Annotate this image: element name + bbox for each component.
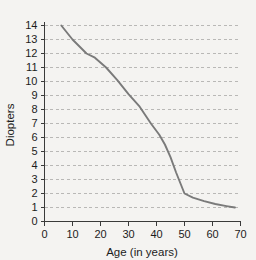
y-tick-label-6: 6: [31, 131, 37, 143]
data-series: [61, 26, 235, 208]
y-tick-label-13: 13: [25, 33, 37, 45]
x-axis-ticks: 010203040506070: [41, 222, 246, 240]
y-tick-label-9: 9: [31, 89, 37, 101]
y-tick-label-12: 12: [25, 47, 37, 59]
y-tick-label-7: 7: [31, 117, 37, 129]
axes: [45, 22, 241, 222]
x-tick-label-10: 10: [66, 228, 78, 240]
y-tick-label-4: 4: [31, 159, 37, 171]
x-tick-label-20: 20: [94, 228, 106, 240]
y-tick-label-10: 10: [25, 75, 37, 87]
y-tick-label-1: 1: [31, 201, 37, 213]
x-tick-label-0: 0: [41, 228, 47, 240]
y-axis-title: Diopters: [4, 103, 16, 146]
series-line-0: [61, 26, 235, 208]
y-tick-label-5: 5: [31, 145, 37, 157]
y-tick-label-8: 8: [31, 103, 37, 115]
chart-container: 01234567891011121314 010203040506070 Age…: [0, 0, 256, 260]
x-tick-label-70: 70: [234, 228, 246, 240]
y-axis-ticks: 01234567891011121314: [25, 19, 44, 227]
x-tick-label-60: 60: [206, 228, 218, 240]
gridlines: [45, 26, 241, 208]
y-tick-label-14: 14: [25, 19, 37, 31]
y-tick-label-2: 2: [31, 187, 37, 199]
x-axis-title: Age (in years): [106, 246, 178, 258]
x-tick-label-50: 50: [178, 228, 190, 240]
x-tick-label-40: 40: [150, 228, 162, 240]
y-tick-label-3: 3: [31, 173, 37, 185]
y-tick-label-0: 0: [31, 215, 37, 227]
line-chart: 01234567891011121314 010203040506070 Age…: [0, 0, 256, 260]
x-tick-label-30: 30: [122, 228, 134, 240]
y-tick-label-11: 11: [26, 61, 37, 73]
